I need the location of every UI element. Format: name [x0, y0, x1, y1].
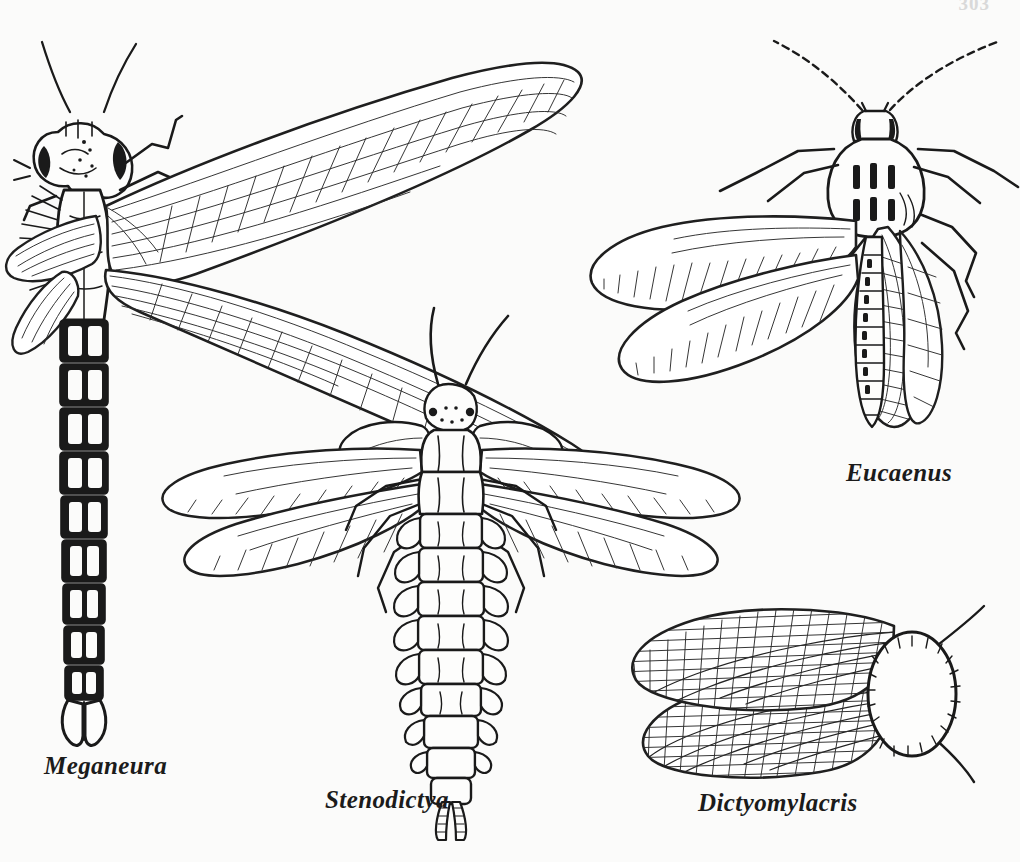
stenodictya-antennae — [431, 308, 508, 384]
meganeura-antennae — [42, 42, 136, 112]
caption-dictyomylacris: Dictyomylacris — [698, 789, 858, 817]
eucaenus-abdomen — [855, 237, 884, 427]
caption-eucaenus: Eucaenus — [846, 459, 952, 487]
caption-meganeura: Meganeura — [44, 752, 167, 780]
figure-dictyomylacris — [598, 598, 998, 798]
eucaenus-antennae — [774, 41, 1000, 110]
meganeura-abdomen — [60, 320, 108, 745]
eucaenus-hindwing-right — [900, 231, 942, 423]
meganeura-forewing-right — [106, 63, 582, 285]
page-number: 303 — [959, 0, 991, 15]
meganeura-head — [14, 120, 132, 198]
caption-stenodictya: Stenodictya — [325, 786, 449, 814]
stenodictya-head — [425, 384, 477, 431]
illustration-plate: 303 — [0, 0, 1020, 862]
dictyomylacris-pronotum — [868, 632, 960, 756]
meganeura-claspers — [62, 700, 106, 745]
stenodictya-thorax — [419, 430, 484, 514]
figure-eucaenus — [570, 15, 1020, 465]
